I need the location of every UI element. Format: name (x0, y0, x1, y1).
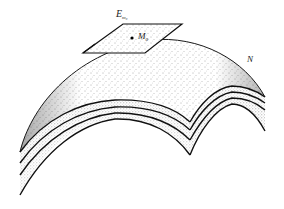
label-plane-sub: m₀ (122, 15, 127, 20)
point-m0-marker (130, 36, 133, 39)
label-surface-n: N (247, 55, 253, 64)
label-plane-e: Em₀ (116, 9, 127, 20)
label-point-sub: 0 (146, 37, 149, 42)
label-point-main: M (138, 31, 146, 41)
label-point-m0: M0 (138, 32, 148, 42)
